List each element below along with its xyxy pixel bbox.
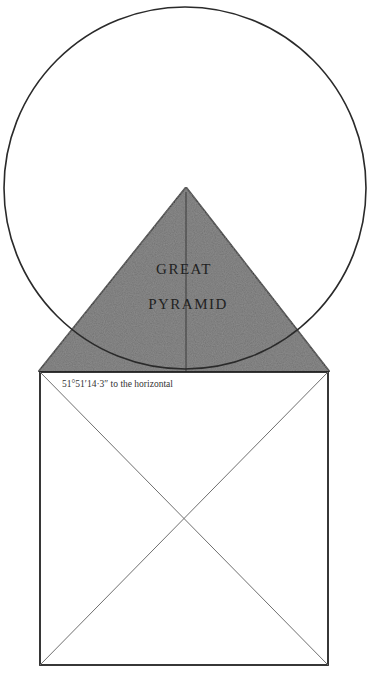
pyramid-label-pyramid: PYRAMID: [148, 296, 228, 312]
pyramid-label-great: GREAT: [156, 261, 212, 277]
pyramid-circle-square-diagram: GREAT PYRAMID 51°51′14·3″ to the horizon…: [0, 0, 373, 673]
angle-label: 51°51′14·3″ to the horizontal: [62, 379, 173, 389]
pyramid-triangle: [38, 187, 330, 372]
